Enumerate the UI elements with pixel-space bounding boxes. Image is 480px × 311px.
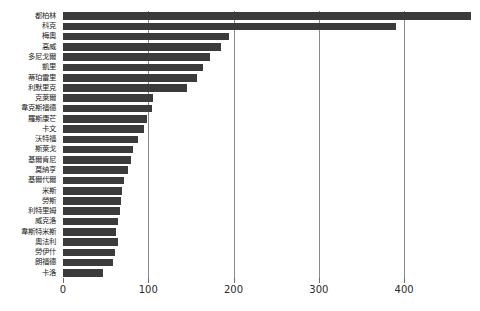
y-axis-label: 韋斯特米斯 (0, 228, 56, 236)
plot-area (63, 11, 480, 278)
bar-row (63, 228, 116, 236)
bar (63, 105, 152, 113)
bar (63, 23, 396, 31)
bar (63, 177, 124, 185)
x-tick-label: 200 (224, 284, 243, 296)
y-axis-label: 科克 (0, 22, 56, 30)
bar (63, 187, 122, 195)
bar (63, 259, 113, 267)
bar-row (63, 249, 115, 257)
x-tick-200 (234, 278, 235, 283)
x-tick-label: 0 (60, 284, 66, 296)
bar-row (63, 218, 118, 226)
y-axis-label: 朗福德 (0, 258, 56, 266)
x-tick-0 (63, 278, 64, 283)
bar-chart: 都柏林科克梅奧高威多尼戈爾凱里蒂珀雷里利默里克克萊爾韋克斯福德羅斯康芒卡文沃特福… (0, 0, 480, 311)
y-axis-category-labels: 都柏林科克梅奧高威多尼戈爾凱里蒂珀雷里利默里克克萊爾韋克斯福德羅斯康芒卡文沃特福… (0, 11, 60, 278)
bar-row (63, 53, 210, 61)
bar (63, 197, 121, 205)
bar-row (63, 207, 120, 215)
bar-row (63, 33, 229, 41)
y-axis-label: 基爾肯尼 (0, 156, 56, 164)
bar (63, 12, 471, 20)
bar (63, 146, 133, 154)
y-axis-label: 都柏林 (0, 12, 56, 20)
bar-row (63, 197, 121, 205)
bar (63, 64, 203, 72)
bar (63, 74, 197, 82)
x-tick-400 (404, 278, 405, 283)
y-axis-label: 奧法利 (0, 238, 56, 246)
bar (63, 218, 118, 226)
x-tick-label: 300 (309, 284, 328, 296)
bar-row (63, 146, 133, 154)
bar-row (63, 177, 124, 185)
y-axis-label: 威克洛 (0, 217, 56, 225)
bar (63, 249, 115, 257)
y-axis-label: 高威 (0, 43, 56, 51)
bar (63, 207, 120, 215)
bar-row (63, 84, 187, 92)
y-axis-label: 卡洛 (0, 269, 56, 277)
bar-row (63, 187, 122, 195)
y-axis-label: 利默里克 (0, 84, 56, 92)
y-axis-label: 米斯 (0, 187, 56, 195)
bar-row (63, 136, 138, 144)
x-axis: 0100200300400 (63, 278, 480, 300)
bar (63, 94, 153, 102)
bar-row (63, 115, 147, 123)
bar (63, 136, 138, 144)
bar-row (63, 238, 118, 246)
y-axis-label: 克萊爾 (0, 94, 56, 102)
y-axis-label: 凱里 (0, 63, 56, 71)
bar-row (63, 43, 221, 51)
bar-row (63, 12, 471, 20)
y-axis-label: 斯萊戈 (0, 145, 56, 153)
bar-row (63, 23, 396, 31)
bar-row (63, 269, 103, 277)
bar-row (63, 125, 144, 133)
bar (63, 269, 103, 277)
y-axis-label: 羅斯康芒 (0, 115, 56, 123)
bar (63, 125, 144, 133)
y-axis-label: 利特里姆 (0, 207, 56, 215)
bar-row (63, 105, 152, 113)
bar-row (63, 64, 203, 72)
y-axis-label: 勞伊什 (0, 248, 56, 256)
x-tick-label: 400 (395, 284, 414, 296)
x-tick-300 (319, 278, 320, 283)
x-tick-label: 100 (139, 284, 158, 296)
y-axis-label: 卡文 (0, 125, 56, 133)
bar (63, 166, 128, 174)
y-axis-label: 多尼戈爾 (0, 53, 56, 61)
bar-row (63, 94, 153, 102)
bar-row (63, 74, 197, 82)
bar-row (63, 156, 131, 164)
y-axis-label: 勞斯 (0, 197, 56, 205)
bar (63, 84, 187, 92)
bar (63, 238, 118, 246)
bar (63, 228, 116, 236)
y-axis-label: 梅奧 (0, 32, 56, 40)
x-tick-100 (148, 278, 149, 283)
y-axis-label: 莫納亨 (0, 166, 56, 174)
y-axis-label: 沃特福 (0, 135, 56, 143)
bar-row (63, 259, 113, 267)
bar (63, 115, 147, 123)
bar (63, 53, 210, 61)
bar-series (63, 11, 480, 278)
y-axis-label: 韋克斯福德 (0, 104, 56, 112)
bar (63, 43, 221, 51)
y-axis-label: 蒂珀雷里 (0, 74, 56, 82)
y-axis-label: 基爾代爾 (0, 176, 56, 184)
bar-row (63, 166, 128, 174)
bar (63, 33, 229, 41)
bar (63, 156, 131, 164)
